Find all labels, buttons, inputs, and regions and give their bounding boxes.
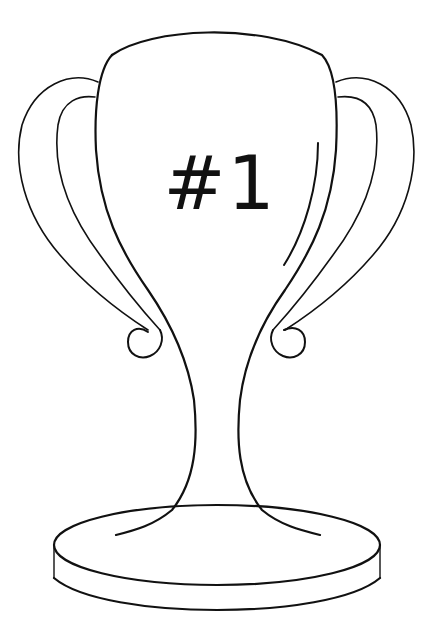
right-handle-curl [271,328,305,357]
left-handle-curl [128,329,162,358]
trophy-illustration: #1 [0,0,433,630]
trophy-rank-label: #1 [150,138,290,228]
trophy-cup-outline [112,32,337,535]
trophy-icon [0,0,433,630]
base-top [54,505,380,585]
trophy-cup-outline-left [96,55,196,535]
base-bottom [54,578,380,610]
